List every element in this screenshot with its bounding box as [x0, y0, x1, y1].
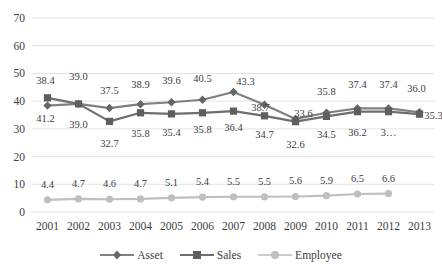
y-axis-tick-label: 0	[19, 206, 25, 218]
x-axis-tick-label: 2012	[377, 220, 400, 232]
x-axis-tick-label: 2008	[253, 220, 276, 232]
data-label: 38.4	[36, 75, 55, 86]
data-point-marker	[416, 111, 423, 118]
data-label: 5.1	[165, 177, 178, 188]
data-label: 41.2	[36, 113, 54, 124]
y-axis-tick-label: 40	[14, 95, 26, 107]
data-label: 35.8	[193, 124, 211, 135]
data-label: 40.5	[193, 73, 211, 84]
data-label: 37.5	[100, 85, 118, 96]
series-sales	[44, 94, 423, 125]
y-axis-tick-label: 60	[14, 40, 26, 52]
data-point-marker	[168, 194, 175, 201]
x-axis-tick-label: 2010	[315, 220, 338, 232]
data-label: 37.4	[379, 79, 398, 90]
data-label: 39.0	[69, 119, 87, 130]
data-point-marker	[230, 108, 237, 115]
line-chart: 0102030405060702001200220032004200520062…	[0, 0, 442, 273]
data-label: 38.7	[251, 102, 269, 113]
data-label: 35.8	[317, 86, 335, 97]
data-point-marker	[261, 112, 268, 119]
x-axis-tick-label: 2004	[129, 220, 152, 232]
chart-legend: Asset Sales Employee	[0, 244, 442, 266]
data-point-marker	[199, 193, 206, 200]
legend-item-sales[interactable]: Sales	[180, 249, 241, 261]
legend-marker-diamond-icon	[100, 249, 134, 261]
data-label: 3…	[381, 127, 397, 138]
legend-item-asset[interactable]: Asset	[100, 249, 163, 261]
data-label: 35.8	[131, 128, 149, 139]
x-axis-tick-label: 2001	[36, 220, 59, 232]
data-label: 36.4	[224, 122, 243, 133]
data-point-marker	[292, 118, 299, 125]
data-point-marker	[385, 108, 392, 115]
data-point-marker	[43, 101, 51, 109]
data-point-marker	[261, 193, 268, 200]
data-label: 5.5	[258, 176, 271, 187]
legend-marker-square-icon	[180, 249, 214, 261]
data-label: 5.5	[227, 176, 240, 187]
x-axis-tick-label: 2007	[222, 220, 245, 232]
data-label: 4.4	[41, 179, 55, 190]
data-point-marker	[323, 192, 330, 199]
data-label: 36.0	[407, 83, 425, 94]
data-point-marker	[168, 110, 175, 117]
legend-label-employee: Employee	[295, 249, 342, 261]
data-label: 32.7	[100, 138, 118, 149]
data-point-marker	[354, 190, 361, 197]
data-point-marker	[75, 195, 82, 202]
y-axis-tick-label: 50	[14, 67, 26, 79]
legend-marker-circle-icon	[258, 249, 292, 261]
series-line	[48, 194, 389, 200]
data-label: 34.7	[255, 129, 273, 140]
data-label: 39.0	[69, 71, 87, 82]
data-label: 37.4	[348, 79, 367, 90]
data-label: 6.5	[351, 173, 364, 184]
data-point-marker	[105, 104, 113, 112]
legend-item-employee[interactable]: Employee	[258, 249, 342, 261]
data-point-marker	[106, 196, 113, 203]
data-point-marker	[44, 94, 51, 101]
x-axis-tick-label: 2011	[346, 220, 369, 232]
data-point-marker	[106, 118, 113, 125]
data-label: 5.6	[289, 175, 302, 186]
data-label: 4.7	[134, 178, 147, 189]
data-point-marker	[230, 193, 237, 200]
data-label: 33.6	[294, 108, 312, 119]
data-label: 43.3	[236, 76, 254, 87]
data-point-marker	[198, 96, 206, 104]
y-axis-tick-label: 70	[14, 12, 26, 24]
x-axis-tick-label: 2003	[98, 220, 121, 232]
data-label: 4.7	[72, 178, 85, 189]
y-axis-tick-label: 30	[14, 123, 26, 135]
data-label: 35.4	[162, 127, 181, 138]
legend-label-asset: Asset	[137, 249, 163, 261]
data-label: 5.4	[196, 176, 210, 187]
data-point-marker	[323, 113, 330, 120]
series-employee	[44, 190, 392, 203]
data-point-marker	[137, 109, 144, 116]
data-label: 4.6	[103, 178, 116, 189]
data-point-marker	[385, 190, 392, 197]
x-axis-tick-label: 2006	[191, 220, 214, 232]
data-label: 35.3	[424, 110, 442, 121]
data-point-marker	[44, 196, 51, 203]
y-axis-tick-label: 20	[14, 151, 26, 163]
data-point-marker	[137, 195, 144, 202]
chart-plot-area: 0102030405060702001200220032004200520062…	[0, 0, 442, 273]
data-label: 6.6	[382, 173, 395, 184]
data-label: 36.2	[348, 127, 366, 138]
data-label: 39.6	[162, 75, 180, 86]
y-axis-tick-label: 10	[14, 178, 26, 190]
data-label: 32.6	[286, 139, 304, 150]
data-point-marker	[75, 100, 82, 107]
legend-label-sales: Sales	[217, 249, 241, 261]
data-point-marker	[199, 109, 206, 116]
x-axis-tick-label: 2013	[408, 220, 431, 232]
x-axis-tick-label: 2002	[67, 220, 90, 232]
x-axis-tick-label: 2009	[284, 220, 307, 232]
data-point-marker	[354, 108, 361, 115]
x-axis-tick-label: 2005	[160, 220, 183, 232]
data-label: 34.5	[317, 129, 335, 140]
data-label: 5.9	[320, 175, 333, 186]
